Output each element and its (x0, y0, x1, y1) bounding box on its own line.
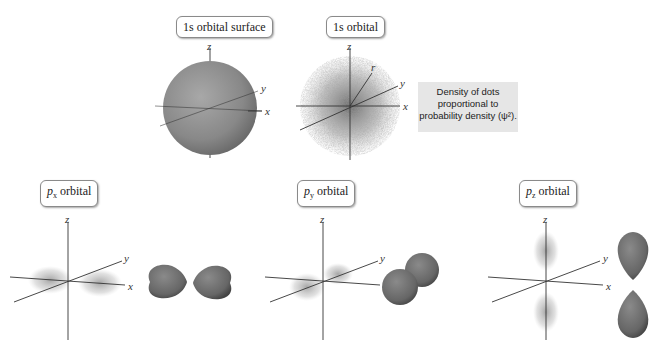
px-orbital-label: px orbital (40, 180, 98, 207)
caption-line-2: proportional to (418, 98, 518, 110)
caption-line-1: Density of dots (418, 86, 518, 98)
svg-text:y: y (379, 252, 385, 264)
s-orbital-density-figure: z r y x (296, 40, 408, 160)
pz-orbital-label: pz orbital (519, 180, 577, 207)
svg-text:x: x (127, 280, 133, 292)
svg-text:y: y (602, 252, 608, 264)
s-orbital-surface-figure: z y x (155, 40, 270, 158)
px-orbital-figure: z y x (10, 213, 231, 340)
orbital-diagram: z y x z r y x z y x z y x (0, 0, 663, 355)
svg-text:z: z (346, 40, 352, 52)
y-axis-label: y (260, 82, 266, 94)
svg-text:r: r (371, 61, 376, 73)
svg-text:x: x (402, 100, 408, 112)
s-orbital-label: 1s orbital (326, 16, 385, 38)
py-orbital-label: py orbital (297, 180, 355, 207)
px-lobe-right (193, 266, 231, 300)
pz-orbital-figure: z y x (488, 213, 648, 340)
svg-text:x: x (605, 280, 611, 292)
py-lobe-front (382, 269, 418, 305)
svg-text:z: z (542, 213, 548, 225)
s-orbital-surface-label: 1s orbital surface (176, 16, 273, 38)
pz-lobe-top (618, 232, 649, 280)
pz-lobe-bottom (618, 290, 649, 338)
px-lobe-left (149, 265, 187, 299)
caption-line-3: probability density (ψ²). (418, 110, 518, 122)
x-axis-label: x (264, 105, 270, 117)
svg-text:y: y (399, 77, 405, 89)
svg-text:z: z (319, 213, 325, 225)
svg-text:z: z (64, 213, 70, 225)
py-orbital-figure: z y x (265, 213, 439, 340)
svg-text:y: y (123, 252, 129, 264)
z-axis-label: z (206, 40, 212, 52)
density-caption: Density of dots proportional to probabil… (418, 82, 518, 132)
